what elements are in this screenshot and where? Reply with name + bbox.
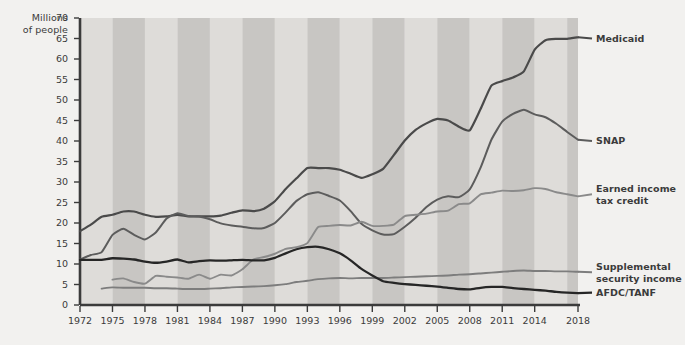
legend-leader (578, 37, 592, 38)
background-band (80, 18, 112, 305)
y-tick-label: 5 (46, 280, 68, 290)
background-band (340, 18, 372, 305)
background-band (567, 18, 578, 305)
legend-label: Earned income (596, 183, 685, 195)
background-band (210, 18, 242, 305)
background-band (307, 18, 339, 305)
y-tick-label: 70 (46, 13, 68, 23)
y-tick-label: 15 (46, 239, 68, 249)
y-tick-label: 65 (46, 34, 68, 44)
y-tick-label: 20 (46, 218, 68, 228)
x-tick-label: 2014 (515, 316, 555, 326)
background-band (112, 18, 144, 305)
legend-label: security income (596, 273, 685, 285)
y-tick-label: 45 (46, 116, 68, 126)
y-tick-label: 35 (46, 157, 68, 167)
y-tick-label: 0 (46, 300, 68, 310)
y-tick-label: 30 (46, 177, 68, 187)
y-tick-label: 10 (46, 259, 68, 269)
y-tick-label: 50 (46, 95, 68, 105)
legend-label: tax credit (596, 195, 685, 207)
chart-svg (0, 0, 685, 345)
legend-leader (578, 194, 592, 196)
legend-leader (578, 140, 592, 141)
background-band (275, 18, 307, 305)
y-tick-label: 60 (46, 54, 68, 64)
background-band (242, 18, 274, 305)
y-tick-label: 40 (46, 136, 68, 146)
chart-container: Millions of people 706560555045403530252… (0, 0, 685, 345)
y-tick-label: 55 (46, 75, 68, 85)
y-tick-label: 25 (46, 198, 68, 208)
background-band (470, 18, 502, 305)
bleed-through-text (245, 2, 675, 16)
legend-label: SNAP (596, 135, 685, 147)
background-band (405, 18, 437, 305)
background-band (437, 18, 469, 305)
legend-leader-lines (578, 37, 592, 293)
x-tick-label: 2018 (558, 316, 598, 326)
background-band (535, 18, 567, 305)
legend-label: Supplemental (596, 261, 685, 273)
legend-label: Medicaid (596, 33, 685, 45)
legend-label: AFDC/TANF (596, 287, 685, 299)
